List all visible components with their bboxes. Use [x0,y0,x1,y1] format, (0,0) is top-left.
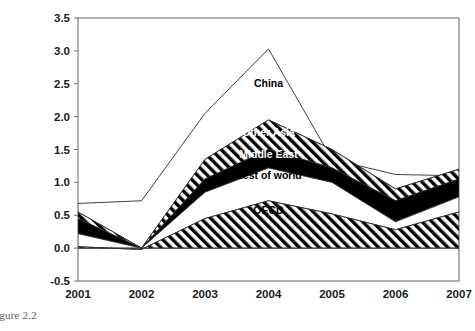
series-label-oecd: OECD [253,204,284,216]
x-tick-label: 2006 [383,288,409,300]
x-tick-label: 2005 [319,288,345,300]
y-tick-label: 0.0 [54,242,70,254]
y-tick-label: -0.5 [50,275,70,287]
x-tick-label: 2007 [446,288,472,300]
series-label-middle-east: Middle East [239,148,298,160]
x-tick-label: 2002 [129,288,155,300]
y-tick-label: 2.5 [54,78,71,90]
y-tick-label: 3.5 [54,12,71,24]
series-label-rest-of-world: Rest of world [235,169,302,181]
series-label-china: China [254,77,283,89]
y-tick-label: 0.5 [54,209,71,221]
x-tick-label: 2004 [256,288,282,300]
x-tick-label: 2003 [192,288,218,300]
figure-2-2-stacked-area-chart: -0.50.00.51.01.52.02.53.03.5 20012002200… [0,0,475,331]
y-tick-label: 1.5 [54,144,71,156]
y-tick-label: 2.0 [54,111,70,123]
x-tick-label: 2001 [65,288,91,300]
figure-caption: igure 2.2 [0,309,37,321]
y-tick-label: 1.0 [54,176,70,188]
series-label-other-asia: Other Asia [242,126,295,138]
y-tick-label: 3.0 [54,45,70,57]
